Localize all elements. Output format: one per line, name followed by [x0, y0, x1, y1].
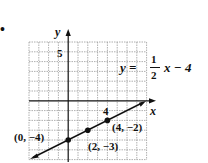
graph-figure: • y x 5 4 y =: [0, 0, 208, 163]
bullet: •: [0, 22, 5, 37]
x-tick-label: 4: [103, 105, 109, 117]
point-label-0: (0, −4): [14, 131, 44, 144]
y-axis-label: y: [53, 25, 61, 39]
point-1: [85, 127, 91, 133]
line-arrow-left-icon: [30, 154, 39, 160]
x-axis-arrow-icon: [149, 98, 156, 103]
equation-denominator: 2: [151, 69, 157, 81]
point-label-1: (2, −3): [88, 140, 118, 153]
line-arrow-right-icon: [139, 101, 146, 107]
x-axis-label: x: [149, 104, 156, 118]
equation-lhs: y =: [118, 60, 136, 75]
y-tick-label: 5: [57, 47, 63, 59]
equation: y = 1 2 x − 4: [118, 53, 192, 81]
point-0: [65, 137, 71, 143]
equation-rhs: x − 4: [163, 60, 192, 75]
point-2: [105, 118, 111, 124]
point-label-2: (4, −2): [112, 121, 142, 134]
equation-numerator: 1: [151, 53, 157, 65]
y-axis-arrow-icon: [66, 29, 71, 36]
